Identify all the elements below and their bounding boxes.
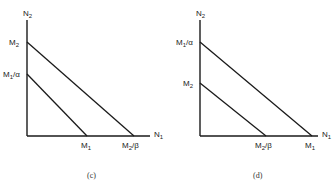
x-intercept-label-m2-beta: M2/β: [122, 141, 139, 151]
y-axis-label: N2: [23, 9, 33, 19]
panel-caption: (d): [253, 171, 263, 180]
panel-d: N2 N1 M1/α M2 M2/β M1 (d): [176, 9, 332, 180]
panel-c: N2 N1 M2 M1/α M1 M2/β (c): [3, 9, 164, 180]
y-intercept-label-m2: M2: [183, 79, 194, 89]
isocline-outer: [27, 42, 134, 136]
y-intercept-label-m2: M2: [9, 38, 20, 48]
y-axis-label: N2: [196, 9, 206, 19]
isocline-inner: [200, 83, 266, 136]
x-axis-label: N1: [322, 130, 332, 140]
x-intercept-label-m1: M1: [305, 141, 316, 151]
isocline-inner: [27, 74, 87, 136]
y-intercept-label-m1-alpha: M1/α: [176, 38, 193, 48]
phase-diagram-figure: N2 N1 M2 M1/α M1 M2/β (c) N2 N1 M1/α M2 …: [0, 0, 335, 186]
x-intercept-label-m2-beta: M2/β: [255, 141, 272, 151]
isocline-outer: [200, 42, 312, 136]
x-intercept-label-m1: M1: [81, 141, 92, 151]
panel-caption: (c): [87, 171, 96, 180]
x-axis-label: N1: [154, 130, 164, 140]
y-intercept-label-m1-alpha: M1/α: [3, 70, 20, 80]
